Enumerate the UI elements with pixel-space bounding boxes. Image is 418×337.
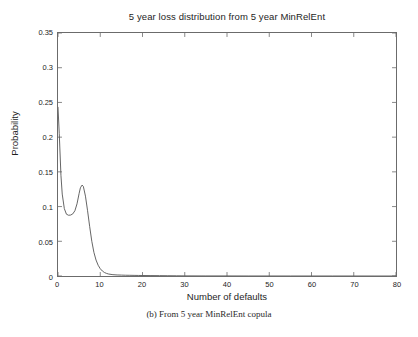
- y-tick-label: 0.3: [43, 63, 53, 72]
- y-tick-label: 0.2: [43, 133, 53, 142]
- y-tick-label: 0.25: [38, 98, 53, 107]
- chart-title: 5 year loss distribution from 5 year Min…: [57, 11, 397, 22]
- x-tick-label: 0: [55, 280, 59, 289]
- plot-area: [57, 32, 397, 277]
- x-tick-label: 40: [223, 280, 231, 289]
- y-tick-label: 0.35: [38, 28, 53, 37]
- x-tick-label: 70: [350, 280, 358, 289]
- x-tick-label: 60: [308, 280, 316, 289]
- y-tick-label: 0: [49, 273, 53, 282]
- y-tick-label: 0.15: [38, 168, 53, 177]
- x-axis-title: Number of defaults: [57, 291, 397, 302]
- figure-caption: (b) From 5 year MinRelEnt copula: [0, 309, 418, 319]
- y-tick-label: 0.1: [43, 203, 53, 212]
- y-axis-tick-labels: 00.050.10.150.20.250.30.35: [20, 32, 53, 277]
- x-tick-label: 10: [95, 280, 103, 289]
- x-tick-label: 80: [393, 280, 401, 289]
- axis-tick-marks: [58, 33, 396, 276]
- x-tick-label: 20: [138, 280, 146, 289]
- plot-svg: [58, 33, 396, 276]
- data-series-line: [58, 107, 396, 276]
- y-tick-label: 0.05: [38, 238, 53, 247]
- x-tick-label: 30: [180, 280, 188, 289]
- figure-container: 5 year loss distribution from 5 year Min…: [0, 0, 418, 337]
- x-tick-label: 50: [265, 280, 273, 289]
- y-axis-title: Probability: [9, 89, 20, 179]
